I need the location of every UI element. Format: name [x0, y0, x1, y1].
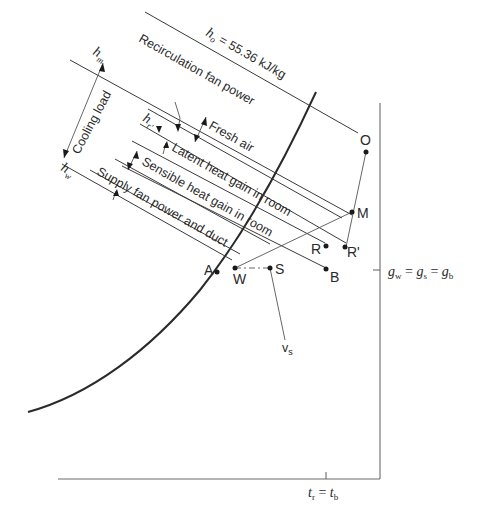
- line-s-vs: [270, 268, 285, 340]
- point-o: [364, 150, 369, 155]
- supply-fan-arrow: [113, 189, 119, 200]
- svg-text:tr = tb: tr = tb: [308, 485, 339, 502]
- point-s: [268, 266, 273, 271]
- label-a: A: [204, 262, 214, 278]
- label-cooling-load: Cooling load: [69, 88, 114, 156]
- label-r: R: [311, 241, 321, 257]
- enthalpy-line-ho: [145, 12, 358, 133]
- svg-text:gw = gs = gb: gw = gs = gb: [388, 264, 454, 281]
- mixing-line-o-rprime: [346, 152, 366, 247]
- label-w: W: [233, 271, 247, 287]
- label-s: S: [275, 261, 284, 277]
- label-specific-volume: vs: [282, 341, 293, 357]
- point-m: [350, 210, 355, 215]
- point-w: [233, 266, 238, 271]
- label-r-prime: R': [347, 244, 360, 260]
- sensible-arrow: [127, 151, 139, 170]
- label-temperature-equality: tr = tb: [308, 485, 339, 502]
- point-r: [324, 244, 329, 249]
- point-a: [215, 270, 220, 275]
- svg-text:vs: vs: [282, 341, 293, 357]
- label-o: O: [360, 132, 371, 148]
- label-b: B: [330, 269, 339, 285]
- label-m: M: [357, 205, 369, 221]
- label-hm: hm: [89, 44, 110, 67]
- label-moisture-equality: gw = gs = gb: [388, 264, 454, 281]
- psychrometric-diagram: O M R R' B A W S ho = 55.36 kJ/kg hm hr'…: [0, 0, 496, 527]
- hr-arrow: [156, 126, 162, 133]
- point-b: [324, 267, 329, 272]
- label-fresh-air: Fresh air: [207, 118, 257, 154]
- latent-arrow: [163, 141, 169, 154]
- svg-text:hm: hm: [89, 44, 110, 67]
